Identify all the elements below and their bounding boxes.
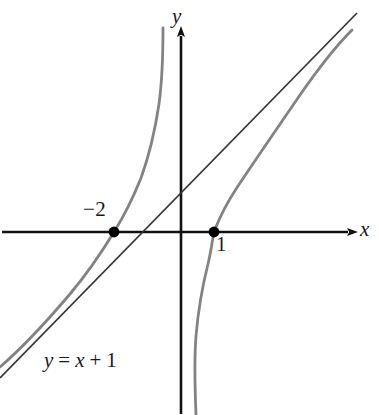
asymptote-equation-label: y=x+1: [44, 350, 117, 371]
curve-left-branch: [0, 28, 163, 367]
tick-label-negative-two: −2: [83, 199, 106, 220]
graph-figure: y x −2 1 y=x+1: [0, 0, 379, 415]
y-axis-label: y: [172, 6, 181, 27]
eq-plus: +: [90, 348, 102, 372]
x-axis-label: x: [360, 219, 369, 240]
tick-label-one: 1: [216, 234, 227, 255]
eq-var: x: [75, 348, 84, 372]
eq-const: 1: [106, 348, 117, 372]
eq-equals: =: [58, 348, 70, 372]
curve-right-branch: [195, 30, 352, 415]
asymptote-line: [0, 13, 357, 378]
point-x-intercept-left: [109, 227, 120, 238]
eq-lhs: y: [44, 348, 53, 372]
